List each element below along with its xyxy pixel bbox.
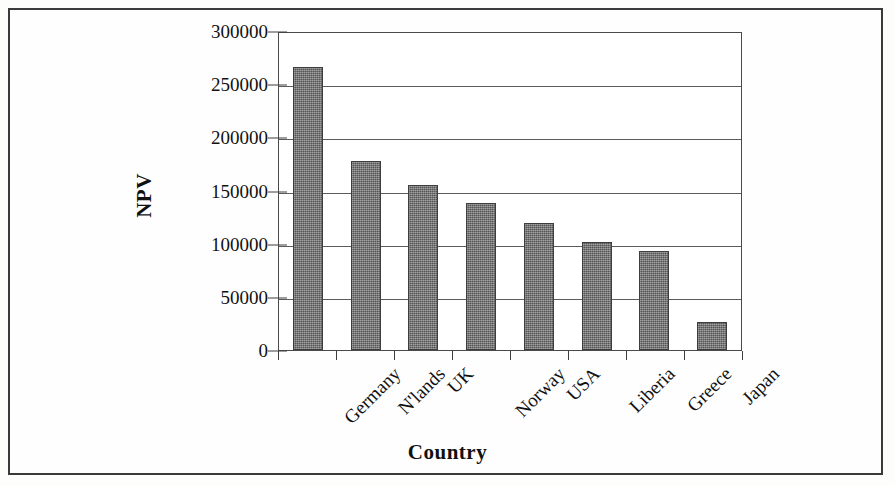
bar-slot bbox=[626, 33, 684, 350]
bar-slot bbox=[452, 33, 510, 350]
y-axis-tick-label: 0 bbox=[259, 340, 269, 362]
bar bbox=[524, 223, 554, 350]
x-axis-tick-mark bbox=[510, 351, 511, 360]
y-axis-tick-label: 50000 bbox=[221, 287, 269, 309]
bar-slot bbox=[568, 33, 626, 350]
plot-area bbox=[278, 32, 742, 351]
bar bbox=[466, 203, 496, 350]
bar-series bbox=[279, 33, 741, 350]
y-axis-tick-mark bbox=[268, 32, 287, 33]
bar-slot bbox=[395, 33, 453, 350]
x-axis-tick-mark bbox=[394, 351, 395, 360]
bar bbox=[697, 322, 727, 350]
y-axis-tick-mark bbox=[268, 191, 287, 192]
y-axis-tick-labels: 050000100000150000200000250000300000 bbox=[180, 32, 268, 351]
y-axis-tick-label: 150000 bbox=[211, 181, 268, 203]
y-axis-tick-mark bbox=[268, 244, 287, 245]
x-axis-tick-mark bbox=[568, 351, 569, 360]
x-axis-tick-mark bbox=[452, 351, 453, 360]
bar bbox=[582, 242, 612, 350]
chart-figure: NPV 050000100000150000200000250000300000… bbox=[0, 0, 895, 485]
x-axis-tick-mark bbox=[626, 351, 627, 360]
y-axis-title-text: NPV bbox=[132, 173, 157, 218]
x-axis-tick-mark bbox=[336, 351, 337, 360]
bar-slot bbox=[279, 33, 337, 350]
y-axis-tick-mark bbox=[268, 85, 287, 86]
bar-slot bbox=[510, 33, 568, 350]
bar bbox=[408, 185, 438, 350]
y-axis-tick-label: 100000 bbox=[211, 234, 268, 256]
y-axis-tick-label: 300000 bbox=[211, 21, 268, 43]
bar bbox=[639, 251, 669, 350]
y-axis-tick-label: 250000 bbox=[211, 74, 268, 96]
y-axis-tick-mark bbox=[268, 297, 287, 298]
bar bbox=[351, 161, 381, 350]
x-axis-tick-mark bbox=[278, 351, 279, 360]
x-axis-tick-mark bbox=[684, 351, 685, 360]
y-axis-tick-mark bbox=[268, 138, 287, 139]
bar-slot bbox=[683, 33, 741, 350]
x-axis-title: Country bbox=[0, 440, 895, 465]
bar bbox=[293, 67, 323, 350]
x-axis-tick-mark bbox=[742, 351, 743, 360]
y-axis-tick-label: 200000 bbox=[211, 127, 268, 149]
y-axis-title: NPV bbox=[129, 155, 159, 235]
bar-slot bbox=[337, 33, 395, 350]
